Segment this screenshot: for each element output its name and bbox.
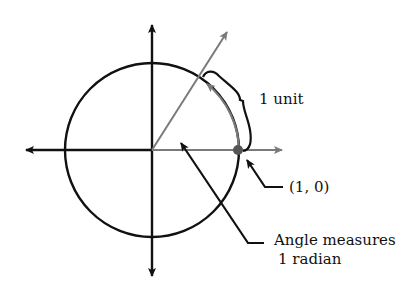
arc-length-label: 1 unit [259,90,303,108]
angle-label-line2: 1 radian [278,250,341,268]
unit-circle-diagram [0,0,413,295]
point-label: (1, 0) [289,178,329,196]
arc-1-radian [207,84,239,150]
angle-leader [181,143,264,243]
point-1-0 [233,145,243,155]
brace-1-unit [203,72,251,151]
point-leader [247,160,283,187]
angle-label-line1: Angle measures [274,231,396,249]
